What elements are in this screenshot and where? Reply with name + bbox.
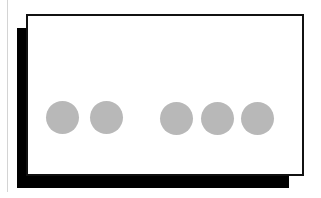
guide-line (7, 0, 8, 192)
dot-left-1 (46, 101, 79, 134)
dot-right-3 (241, 102, 274, 135)
dot-left-2 (90, 101, 123, 134)
dot-right-2 (201, 102, 234, 135)
dot-right-1 (160, 102, 193, 135)
framed-card (26, 14, 304, 176)
